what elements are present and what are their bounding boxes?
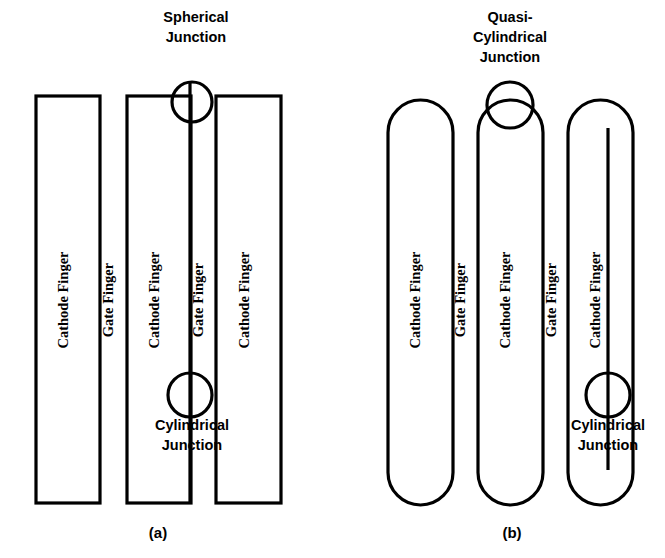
junction-bottom-label-line: Cylindrical bbox=[155, 417, 229, 433]
junction-bottom-label-line: Junction bbox=[578, 437, 638, 453]
junction-top-label-line: Quasi- bbox=[487, 9, 532, 25]
gate-finger-label: Gate Finger bbox=[452, 262, 468, 337]
junction-bottom-label-line: Junction bbox=[162, 437, 222, 453]
panel-b: Cathode FingerGate FingerCathode FingerG… bbox=[388, 9, 645, 541]
junction-top-label-line: Spherical bbox=[163, 9, 228, 25]
cathode-finger-label: Cathode Finger bbox=[146, 251, 162, 349]
cathode-finger-label: Cathode Finger bbox=[407, 251, 423, 349]
panel-a: Cathode FingerGate FingerCathode FingerG… bbox=[36, 9, 281, 541]
diagram-canvas: Cathode FingerGate FingerCathode FingerG… bbox=[0, 0, 665, 558]
gate-finger-label: Gate Finger bbox=[543, 262, 559, 337]
junction-top-label-line: Cylindrical bbox=[473, 29, 547, 45]
junction-bottom-label-line: Cylindrical bbox=[571, 417, 645, 433]
cathode-finger-label: Cathode Finger bbox=[587, 251, 603, 349]
cathode-finger-label: Cathode Finger bbox=[497, 251, 513, 349]
gate-finger-label: Gate Finger bbox=[100, 262, 116, 337]
junction-top-label-line: Junction bbox=[166, 29, 226, 45]
cathode-finger-label: Cathode Finger bbox=[55, 251, 71, 349]
panel-caption: (a) bbox=[149, 524, 167, 541]
gate-finger-label: Gate Finger bbox=[190, 262, 206, 337]
junction-top-label-line: Junction bbox=[480, 49, 540, 65]
figure-root: Cathode FingerGate FingerCathode FingerG… bbox=[0, 0, 665, 558]
cathode-finger-label: Cathode Finger bbox=[236, 251, 252, 349]
panel-caption: (b) bbox=[502, 524, 521, 541]
